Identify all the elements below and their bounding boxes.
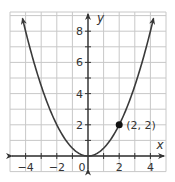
x-axis-label: x <box>155 138 164 152</box>
x-tick-label: −4 <box>17 161 33 174</box>
y-tick-label: 4 <box>76 88 83 101</box>
y-axis-label: y <box>96 11 105 25</box>
point-marker <box>116 121 123 128</box>
parabola-chart: −4−20242468xy(2, 2) <box>0 0 175 182</box>
x-tick-label: −2 <box>49 161 65 174</box>
y-tick-label: 6 <box>76 56 83 69</box>
x-tick-label: 2 <box>116 161 123 174</box>
y-tick-label: 8 <box>76 25 83 38</box>
x-tick-label: 4 <box>147 161 154 174</box>
x-tick-label: 0 <box>79 161 86 174</box>
chart-svg: −4−20242468xy(2, 2) <box>0 0 175 182</box>
point-label: (2, 2) <box>126 119 156 132</box>
y-tick-label: 2 <box>76 119 83 132</box>
